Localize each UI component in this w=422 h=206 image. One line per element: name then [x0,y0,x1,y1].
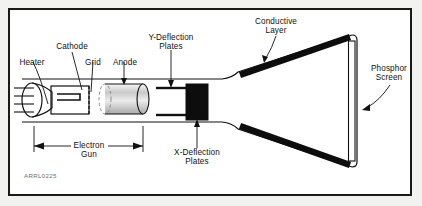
label-x-deflection-plates-line2: Plates [166,157,228,167]
anode-cylinder [99,84,149,114]
label-anode: Anode [106,58,144,68]
label-heater: Heater [8,58,56,68]
phosphor-screen [349,41,356,161]
leader-conductive-layer [266,36,276,58]
label-y-deflection-plates-line2: Plates [140,42,202,52]
crt-diagram [0,0,422,206]
arrowhead-phosphor-screen [362,104,370,111]
label-conductive-layer-line2: Layer [245,26,307,36]
arrowhead-gun-left [34,143,44,150]
label-phosphor-screen-line2: Screen [364,73,414,83]
figure-page: Heater Cathode Grid Anode Y-Deflection P… [0,0,422,206]
x-deflection-plates [186,84,208,120]
label-cathode: Cathode [46,42,98,52]
conductive-layer-lower [240,126,350,165]
arrowhead-gun-right [133,143,143,150]
label-electron-gun-line2: Gun [64,150,114,160]
cathode-electrode [57,94,80,100]
leader-heater [33,62,48,104]
conductive-layer-upper [240,37,350,75]
leader-phosphor-screen [368,85,390,107]
figure-id: ARRL0225 [24,172,57,179]
label-grid: Grid [78,58,108,68]
heater-leads [14,88,34,112]
